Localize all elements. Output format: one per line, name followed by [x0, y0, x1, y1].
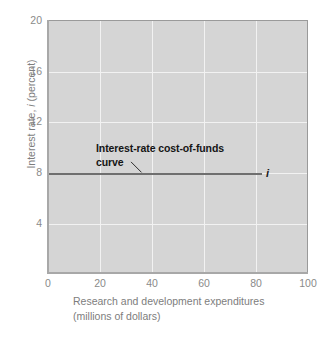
- curve-series-label-i: i: [266, 168, 269, 179]
- y-tick-label-4: 4: [16, 217, 42, 229]
- gridline-horizontal-4: [48, 224, 307, 225]
- x-tick-label-20: 20: [85, 277, 115, 289]
- curve-annotation-line-1: Interest-rate cost-of-funds: [96, 142, 246, 156]
- y-axis-title-symbol: i: [25, 104, 37, 106]
- plot-area: i Interest-rate cost-of-funds curve: [48, 20, 308, 272]
- y-axis-title-part-2: (percent): [25, 59, 37, 104]
- plot-frame-bottom: [47, 272, 308, 274]
- curve-annotation-text: Interest-rate cost-of-funds curve: [96, 142, 246, 170]
- y-axis-title: Interest rate, i (percent): [25, 34, 37, 194]
- y-tick-label-20: 20: [16, 14, 42, 26]
- x-axis-title: Research and development expenditures (m…: [73, 294, 303, 324]
- annotation-leader-line: [131, 161, 145, 175]
- gridline-vertical-80: [256, 21, 257, 272]
- x-tick-label-60: 60: [189, 277, 219, 289]
- x-tick-label-0: 0: [33, 277, 63, 289]
- x-axis-title-line-1: Research and development expenditures: [73, 294, 303, 309]
- gridline-horizontal-16: [48, 72, 307, 73]
- x-tick-label-80: 80: [241, 277, 271, 289]
- x-axis-title-line-2: (millions of dollars): [73, 309, 303, 324]
- y-axis-title-part-1: Interest rate,: [25, 107, 37, 169]
- x-tick-label-40: 40: [137, 277, 167, 289]
- plot-frame-left: [47, 20, 49, 274]
- x-tick-label-100: 100: [293, 277, 323, 289]
- curve-annotation-line-2: curve: [96, 156, 246, 170]
- cost-of-funds-curve-line: [48, 173, 262, 175]
- chart-figure: i Interest-rate cost-of-funds curve 20 1…: [0, 0, 328, 337]
- gridline-horizontal-12: [48, 122, 307, 123]
